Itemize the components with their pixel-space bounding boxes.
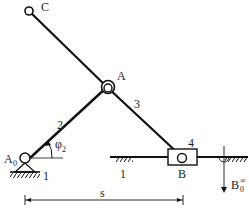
label-c: C [41, 0, 49, 14]
fixed-pivot-a0-icon [10, 153, 63, 178]
label-link-2: 2 [57, 118, 63, 132]
label-s: s [100, 186, 105, 200]
joint-a-icon [102, 81, 115, 94]
label-a0: A [4, 152, 13, 166]
label-b: B [178, 167, 186, 181]
label-b0: B [231, 178, 239, 192]
label-b0-sub: 0 [240, 185, 244, 194]
pivot-b0-infinity-icon [219, 146, 229, 193]
label-link-1-left: 1 [43, 169, 49, 183]
crank-link [30, 87, 107, 158]
label-phi-sub: 2 [62, 145, 66, 154]
label-a0-sub: 0 [13, 159, 17, 168]
label-link-4: 4 [188, 136, 194, 150]
label-a: A [117, 69, 126, 83]
joint-c-icon [25, 7, 33, 15]
label-link-1-right: 1 [120, 167, 126, 181]
label-phi: φ [55, 137, 62, 151]
label-b0-sup: ∞ [240, 176, 246, 185]
slider-crank-diagram: C A A 0 2 3 4 1 1 B B 0 ∞ φ 2 s [0, 0, 249, 222]
slider-block-icon [168, 149, 197, 165]
label-link-3: 3 [134, 97, 140, 111]
